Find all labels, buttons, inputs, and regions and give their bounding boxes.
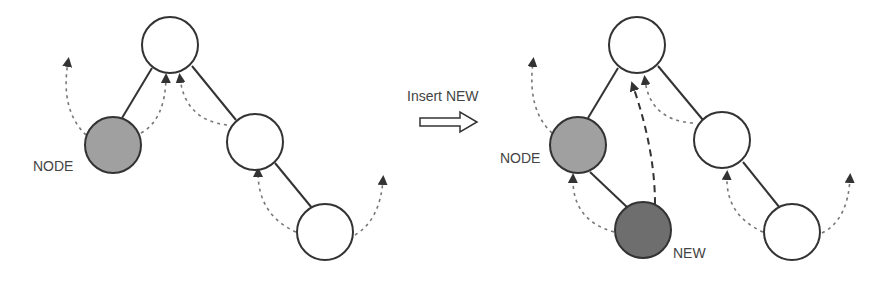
after-tree (532, 17, 850, 260)
edge (743, 162, 780, 208)
parent-pointer-arrow (355, 180, 383, 235)
before-tree (66, 17, 383, 260)
parent-pointer-arrow (727, 175, 763, 232)
node-label-before: NODE (33, 158, 73, 174)
parent-pointer-arrow (573, 178, 614, 232)
edge (590, 172, 628, 208)
parent-pointer-arrow (66, 62, 86, 135)
edge (122, 68, 152, 118)
tree-node (297, 204, 353, 260)
node-label-after: NODE (500, 150, 540, 166)
new-label: NEW (673, 245, 706, 261)
transition-label: Insert NEW (407, 88, 479, 104)
parent-pointer-arrow (532, 62, 552, 133)
tree-node (609, 17, 665, 73)
diagram-canvas (0, 0, 889, 283)
edge (275, 163, 312, 208)
tree-node (142, 17, 198, 73)
tree-node (227, 114, 283, 170)
highlighted-node (550, 117, 606, 173)
tree-node (694, 112, 750, 168)
parent-pointer-arrow (141, 78, 166, 133)
parent-pointer-arrow (822, 178, 850, 233)
highlighted-node (85, 117, 141, 173)
tree-node (764, 204, 820, 260)
edge (588, 68, 618, 118)
insert-arrow-icon (420, 112, 477, 132)
parent-pointer-arrow (645, 80, 693, 123)
new-parent-pointer-arrow (633, 86, 655, 204)
new-node (615, 202, 671, 258)
edge (192, 66, 236, 120)
edge (658, 66, 703, 120)
